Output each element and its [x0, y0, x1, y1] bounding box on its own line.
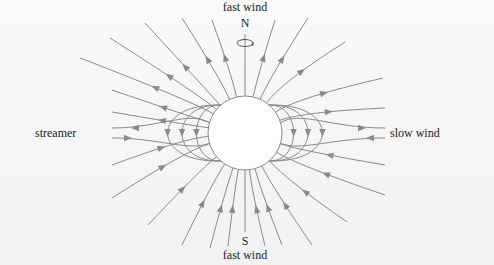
arrow-north-3: [223, 54, 229, 63]
streamer-label: streamer: [35, 126, 76, 140]
solar-wind-diagram: fast wind N S fast wind streamer slow wi…: [0, 0, 494, 265]
field-line-north-5: [260, 18, 308, 99]
arrow-streamer-lower-right: [366, 135, 374, 141]
arrow-loop-left-1: [179, 129, 185, 137]
bottom-wind-label: fast wind: [223, 248, 267, 262]
arrow-north-4: [259, 54, 265, 63]
arrow-north-2: [205, 56, 212, 65]
diagram-canvas: fast wind N S fast wind streamer slow wi…: [0, 0, 494, 265]
north-pole-label: N: [241, 16, 250, 30]
arrow-streamer-upper-left: [131, 125, 139, 131]
arrow-loop-left-2: [164, 129, 170, 137]
arrow-south-3: [217, 204, 223, 213]
sun: [208, 96, 282, 170]
top-wind-label: fast wind: [223, 0, 267, 14]
arrow-south-7: [322, 172, 331, 178]
arrow-south-5: [283, 202, 290, 210]
field-line-north-0: [80, 58, 213, 114]
arrow-north-9: [159, 105, 168, 111]
arrow-loop-right-2: [319, 129, 325, 137]
arrow-south-4: [266, 204, 272, 213]
arrow-loop-left-0: [193, 129, 199, 137]
arrow-south-2: [198, 200, 205, 209]
south-pole-label: S: [242, 234, 249, 248]
arrow-streamer-upper-right: [358, 125, 366, 131]
arrow-south-10: [229, 205, 235, 213]
arrow-streamer-lower-left: [124, 135, 132, 141]
arrow-south-6: [302, 189, 310, 196]
arrow-south-0: [158, 165, 167, 172]
arrow-north-5: [277, 56, 284, 65]
field-line-north-6: [267, 42, 345, 103]
arrow-north-10: [325, 109, 333, 115]
field-line-north-8: [110, 38, 217, 109]
arrow-south-8: [157, 146, 166, 152]
arrow-north-0: [151, 86, 160, 92]
arrow-north-6: [297, 69, 305, 76]
field-line-north-2: [182, 18, 230, 99]
arrow-south-9: [326, 153, 334, 159]
arrow-loop-right-1: [305, 129, 311, 137]
arrow-loop-right-0: [290, 129, 296, 137]
arrow-north-7: [319, 91, 328, 97]
slow-wind-label: slow wind: [390, 126, 440, 140]
arrow-south-11: [254, 205, 260, 213]
arrow-north-8: [166, 74, 174, 81]
streamer-line-upper-right: [280, 118, 385, 128]
